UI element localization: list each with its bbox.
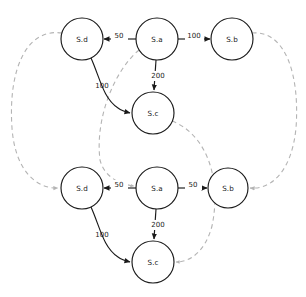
node-top-sb[interactable]: S.b	[211, 18, 253, 60]
node-bot-sd[interactable]: S.d	[61, 167, 103, 209]
node-label: S.c	[148, 258, 159, 267]
node-label: S.c	[148, 109, 159, 118]
edge-label-top-sa-sc: 200	[151, 72, 164, 80]
node-label: S.b	[226, 35, 238, 44]
edge-label-bot-sd-sc: 100	[95, 231, 108, 239]
node-label: S.d	[76, 184, 87, 193]
node-label: S.d	[76, 35, 87, 44]
edge-label-bot-sa-sb: 50	[189, 181, 198, 189]
mapping-edge-sd	[11, 33, 62, 188]
edge-label-bot-sa-sc: 200	[151, 221, 164, 229]
edge-label-bot-sa-sd: 50	[115, 181, 124, 189]
node-label: S.a	[151, 184, 162, 193]
edge-label-top-sa-sb: 100	[187, 32, 200, 40]
graph-svg: 50 100 200 100 S.d S.a	[0, 0, 306, 297]
node-bot-sa[interactable]: S.a	[136, 167, 178, 209]
node-bot-sb[interactable]: S.b	[208, 168, 248, 208]
diagram-canvas: 50 100 200 100 S.d S.a	[0, 0, 306, 297]
node-label: S.b	[222, 184, 234, 193]
node-top-sa[interactable]: S.a	[136, 18, 178, 60]
edge-label-top-sd-sc: 100	[95, 82, 108, 90]
node-top-sc[interactable]: S.c	[132, 92, 174, 134]
edge-label-top-sa-sd: 50	[115, 32, 124, 40]
node-label: S.a	[151, 35, 162, 44]
node-top-sd[interactable]: S.d	[61, 18, 103, 60]
mapping-edge-sb	[250, 33, 297, 188]
node-bot-sc[interactable]: S.c	[132, 241, 174, 283]
